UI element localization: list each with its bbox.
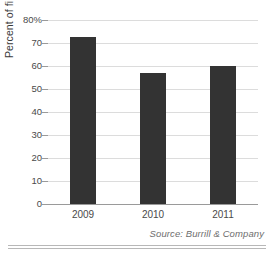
plot-area (48, 20, 258, 204)
y-axis-tick (42, 89, 48, 90)
bar (140, 73, 166, 204)
y-axis-tick-labels: 80%706050403020100 (0, 20, 42, 204)
footer-rule-bottom (8, 248, 266, 249)
y-axis-tick-label: 70 (2, 38, 42, 48)
y-axis-tick (42, 135, 48, 136)
y-axis-tick (42, 43, 48, 44)
x-axis-tick-label: 2009 (53, 209, 113, 221)
y-axis-tick (42, 66, 48, 67)
y-axis-tick (42, 181, 48, 182)
y-axis-tick-label: 40 (2, 107, 42, 117)
chart-figure: Percent of financings 80%706050403020100… (0, 0, 274, 257)
source-note: Source: Burrill & Company (150, 228, 264, 239)
y-axis-tick-label: 20 (2, 153, 42, 163)
y-axis-tick (42, 20, 48, 21)
y-axis-tick-label: 10 (2, 176, 42, 186)
bar (70, 37, 96, 204)
x-axis-tick-label: 2010 (123, 209, 183, 221)
footer-rule-top (8, 245, 266, 246)
y-axis-tick (42, 112, 48, 113)
bar (210, 66, 236, 204)
y-axis-tick (42, 204, 48, 205)
gridline (48, 204, 258, 205)
x-axis-tick-label: 2011 (193, 209, 253, 221)
y-axis-tick (42, 158, 48, 159)
y-axis-tick-label: 50 (2, 84, 42, 94)
y-axis-tick-label: 60 (2, 61, 42, 71)
gridline (48, 20, 258, 21)
y-axis-tick-label: 80% (2, 15, 42, 25)
y-axis-tick-label: 0 (2, 199, 42, 209)
y-axis-tick-label: 30 (2, 130, 42, 140)
